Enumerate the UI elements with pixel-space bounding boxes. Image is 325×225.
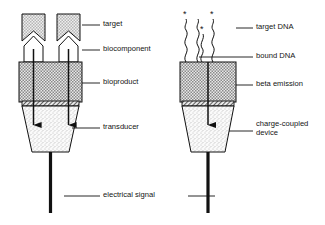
label-electrical-signal: electrical signal (103, 190, 155, 199)
asterisk-3: * (210, 9, 214, 19)
diagram-graphics: * * * (0, 0, 325, 225)
figure-canvas: * * * target biocomponent bioproduct tra… (0, 0, 325, 225)
label-transducer: transducer (103, 122, 139, 131)
asterisk-1: * (183, 9, 187, 19)
dna-strand-4 (212, 19, 214, 62)
label-bioproduct: bioproduct (103, 77, 138, 86)
dna-strand-3 (201, 34, 204, 62)
label-charge-coupled-device: charge-coupled device (256, 119, 316, 137)
bioproduct-block (19, 62, 82, 102)
label-target: target (103, 19, 122, 28)
label-bound-dna: bound DNA (256, 51, 295, 60)
dna-strand-2 (197, 19, 199, 62)
dna-strand-1 (185, 19, 187, 62)
label-biocomponent: biocomponent (103, 44, 151, 53)
interface-strip-left (22, 101, 79, 106)
label-beta-emission: beta emission (256, 79, 303, 88)
transducer-funnel (22, 106, 79, 152)
label-target-dna: target DNA (256, 22, 294, 31)
asterisk-2: * (200, 24, 204, 34)
